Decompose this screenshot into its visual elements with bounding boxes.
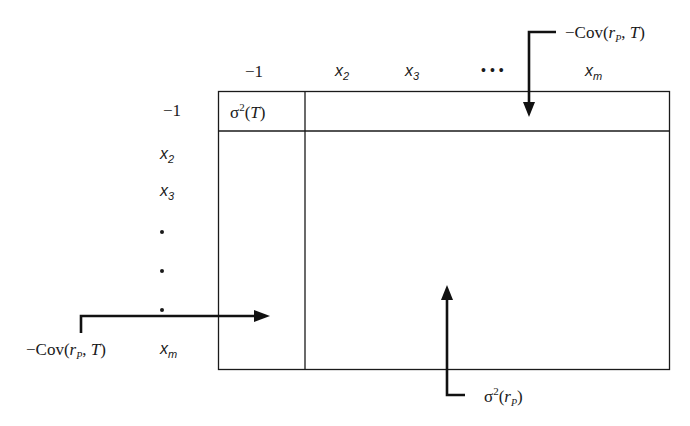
- col-header-xm: xm: [585, 63, 602, 82]
- left-arrow-icon: [81, 310, 270, 333]
- row-header-minus-one: −1: [163, 102, 181, 119]
- col-header-x2: x2: [335, 63, 349, 82]
- row-header-x2: x2: [160, 146, 174, 165]
- col-header-ellipsis: •••: [481, 64, 508, 78]
- row-header-x3: x3: [160, 183, 174, 202]
- col-header-minus-one: −1: [245, 63, 263, 80]
- row-ellipsis-dot-3: [160, 308, 164, 312]
- matrix-border: [219, 92, 670, 370]
- cell-variance-t: σ2(T): [230, 102, 265, 121]
- top-arrow-icon: [523, 32, 556, 117]
- bottom-arrow-icon: [441, 285, 465, 395]
- row-header-xm: xm: [160, 341, 177, 360]
- col-header-x3: x3: [405, 63, 419, 82]
- row-ellipsis-dot-2: [160, 269, 164, 273]
- label-neg-cov-top: −Cov(rP, T): [565, 24, 645, 44]
- label-variance-rp: σ2(rP): [484, 386, 523, 408]
- label-neg-cov-left: −Cov(rP, T): [26, 341, 106, 361]
- row-ellipsis-dot-1: [160, 230, 164, 234]
